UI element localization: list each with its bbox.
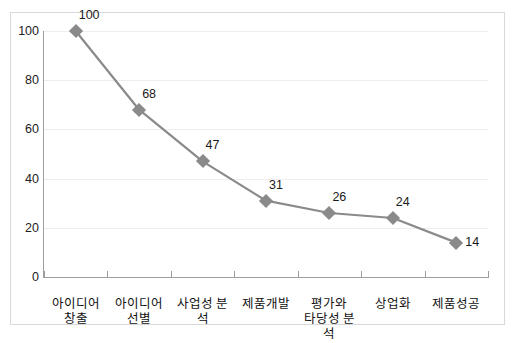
x-category-label: 제품개발 [234, 297, 297, 339]
y-tick-label: 100 [9, 25, 39, 38]
y-tick-label: 20 [9, 221, 39, 234]
y-tick-label: 60 [9, 123, 39, 136]
data-point-label: 47 [206, 139, 220, 152]
y-tick-label: 0 [9, 271, 39, 284]
x-category-label: 평가와타당성 분석 [298, 297, 361, 339]
x-category-label: 사업성 분석 [171, 297, 234, 339]
data-point-label: 14 [465, 236, 479, 249]
x-category-label-line: 제품성공 [425, 297, 488, 312]
x-category-label-line: 선별 [107, 312, 170, 327]
data-point-label: 26 [332, 191, 346, 204]
x-category-label: 아이디어선별 [107, 297, 170, 339]
x-axis-line [43, 277, 488, 278]
x-category-label-line: 아이디어 [44, 297, 107, 312]
x-axis-tick [488, 271, 489, 278]
data-point-label: 68 [142, 88, 156, 101]
data-point-label: 100 [79, 9, 100, 22]
y-tick-label: 40 [9, 172, 39, 185]
y-tick-label: 80 [9, 74, 39, 87]
x-category-label: 상업화 [361, 297, 424, 339]
plot-area: 100684731262414 [44, 31, 488, 277]
x-category-label-line: 상업화 [361, 297, 424, 312]
x-category-label-line: 아이디어 [107, 297, 170, 312]
series-line [44, 31, 488, 277]
data-point-label: 24 [396, 196, 410, 209]
x-category-label: 제품성공 [425, 297, 488, 339]
x-category-label-line: 타당성 분석 [298, 312, 361, 342]
x-category-label-line: 평가와 [298, 297, 361, 312]
x-axis-category-labels: 아이디어창출아이디어선별사업성 분석제품개발평가와타당성 분석상업화제품성공 [44, 297, 488, 339]
x-category-label-line: 창출 [44, 312, 107, 327]
x-category-label-line: 사업성 분석 [171, 297, 234, 327]
chart-frame: 020406080100 100684731262414 아이디어창출아이디어선… [10, 12, 505, 325]
x-category-label-line: 제품개발 [234, 297, 297, 312]
y-axis-tick-labels: 020406080100 [11, 31, 39, 278]
data-point-label: 31 [269, 179, 283, 192]
x-category-label: 아이디어창출 [44, 297, 107, 339]
